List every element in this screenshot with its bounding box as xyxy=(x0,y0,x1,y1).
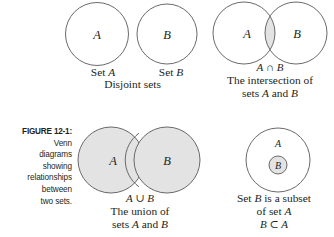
venn-diagram-subset: A B xyxy=(245,127,311,197)
panel-disjoint-sets: A B Set A Set B Disjoint sets xyxy=(60,0,205,115)
symbol-intersection: A ∩ B xyxy=(206,61,334,74)
panel-intersection: A B A ∩ B The intersection of sets A and… xyxy=(206,0,334,115)
symbol-subset: B ⊂ A xyxy=(214,218,334,231)
circle-a-letter: A xyxy=(242,27,251,41)
figure-label: FIGURE 12-1: xyxy=(0,126,72,138)
circle-a-letter: A xyxy=(108,154,117,168)
caption-subset-line1: Set B is a subset xyxy=(214,192,334,205)
figure-caption: FIGURE 12-1: Venn diagrams showing relat… xyxy=(0,126,72,207)
figure-caption-line-5: two sets. xyxy=(0,196,72,208)
figure-caption-line-2: showing xyxy=(0,161,72,173)
circle-a-letter: A xyxy=(274,138,282,149)
circle-b-letter: B xyxy=(275,160,281,171)
panel-union: A B A ∪ B The union of sets A and B xyxy=(72,124,208,237)
circle-b-letter: B xyxy=(163,28,171,42)
venn-diagram-union: A B xyxy=(77,126,205,200)
caption-intersection-line1: The intersection of xyxy=(206,74,334,87)
symbol-union: A ∪ B xyxy=(72,192,208,205)
caption-subset-line2: of set A xyxy=(214,205,334,218)
caption-intersection-line2: sets A and B xyxy=(206,87,334,100)
caption-union-line1: The union of xyxy=(72,205,208,218)
figure-caption-line-1: diagrams xyxy=(0,149,72,161)
venn-diagram-disjoint: A B xyxy=(64,1,200,73)
panel-subset: A B Set B is a subset of set A B ⊂ A xyxy=(214,124,334,237)
figure-caption-line-4: between xyxy=(0,184,72,196)
circle-b-letter: B xyxy=(293,27,301,41)
figure-caption-line-3: relationships xyxy=(0,172,72,184)
circle-a-letter: A xyxy=(92,28,101,42)
label-set-a: Set A xyxy=(68,66,138,79)
caption-union-line2: sets A and B xyxy=(72,218,208,231)
caption-disjoint-sets: Disjoint sets xyxy=(60,78,205,91)
venn-figure: FIGURE 12-1: Venn diagrams showing relat… xyxy=(0,0,334,237)
figure-caption-line-0: Venn xyxy=(0,138,72,150)
label-set-b: Set B xyxy=(136,66,206,79)
circle-b-letter: B xyxy=(163,154,171,168)
